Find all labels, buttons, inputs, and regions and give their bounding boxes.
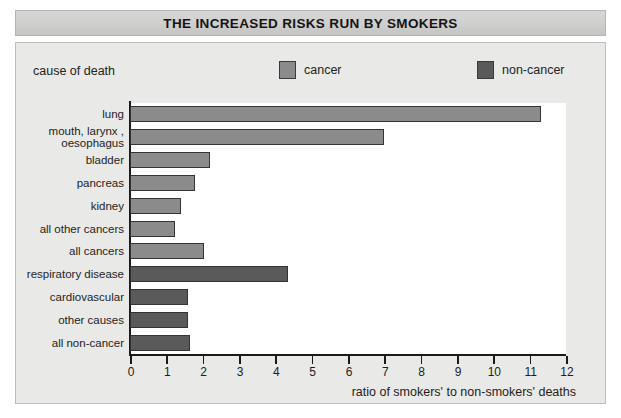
x-tick <box>166 356 168 364</box>
chart-panel: cause of death cancer non-cancer lungmou… <box>15 42 606 404</box>
x-tick <box>530 356 532 364</box>
bar-row <box>130 266 288 282</box>
x-tick <box>239 356 241 364</box>
bar-row <box>130 106 541 122</box>
bar <box>130 335 190 351</box>
x-tick <box>457 356 459 364</box>
x-tick-label: 3 <box>237 365 244 379</box>
bar <box>130 129 384 145</box>
x-tick-label: 0 <box>128 365 135 379</box>
bar-row <box>130 129 384 145</box>
x-tick <box>384 356 386 364</box>
x-tick-label: 6 <box>346 365 353 379</box>
bar <box>130 198 181 214</box>
x-axis-title: ratio of smokers' to non-smokers' deaths <box>16 385 576 399</box>
bar-row <box>130 243 204 259</box>
category-label: respiratory disease <box>0 268 124 280</box>
x-tick <box>312 356 314 364</box>
x-tick-label: 7 <box>382 365 389 379</box>
bar <box>130 289 188 305</box>
bar-row <box>130 335 190 351</box>
bar <box>130 312 188 328</box>
category-label: all non-cancer <box>0 337 124 349</box>
bar <box>130 243 204 259</box>
category-label: other causes <box>0 314 124 326</box>
x-tick-label: 1 <box>164 365 171 379</box>
category-label: cardiovascular <box>0 291 124 303</box>
x-tick-label: 12 <box>560 365 573 379</box>
x-tick-label: 8 <box>418 365 425 379</box>
plot-wrap: lungmouth, larynx , oesophagusbladderpan… <box>16 43 607 405</box>
category-label: mouth, larynx , oesophagus <box>0 125 124 149</box>
x-tick-label: 10 <box>488 365 501 379</box>
x-tick <box>566 356 568 364</box>
chart-title-bar: THE INCREASED RISKS RUN BY SMOKERS <box>15 10 606 36</box>
x-tick <box>348 356 350 364</box>
x-tick <box>275 356 277 364</box>
x-tick <box>203 356 205 364</box>
bar <box>130 266 288 282</box>
category-label: pancreas <box>0 177 124 189</box>
category-label: all other cancers <box>0 223 124 235</box>
bar-row <box>130 175 195 191</box>
bar <box>130 106 541 122</box>
bar-row <box>130 221 175 237</box>
category-label: bladder <box>0 154 124 166</box>
x-tick-label: 9 <box>455 365 462 379</box>
x-tick <box>130 356 132 364</box>
bar-series-group <box>130 103 566 354</box>
bar-row <box>130 289 188 305</box>
chart-figure: THE INCREASED RISKS RUN BY SMOKERS cause… <box>0 0 621 418</box>
bar <box>130 221 175 237</box>
x-tick-label: 5 <box>309 365 316 379</box>
x-tick <box>421 356 423 364</box>
category-label: all cancers <box>0 245 124 257</box>
x-tick-label: 4 <box>273 365 280 379</box>
category-label: lung <box>0 108 124 120</box>
bar-row <box>130 198 181 214</box>
x-tick-label: 11 <box>524 365 536 379</box>
category-label: kidney <box>0 200 124 212</box>
x-tick-label: 2 <box>200 365 207 379</box>
y-axis-category-labels: lungmouth, larynx , oesophagusbladderpan… <box>0 103 124 354</box>
bar-row <box>130 312 188 328</box>
x-tick <box>493 356 495 364</box>
page-title: THE INCREASED RISKS RUN BY SMOKERS <box>163 16 457 31</box>
bar-row <box>130 152 210 168</box>
bar <box>130 175 195 191</box>
bar <box>130 152 210 168</box>
